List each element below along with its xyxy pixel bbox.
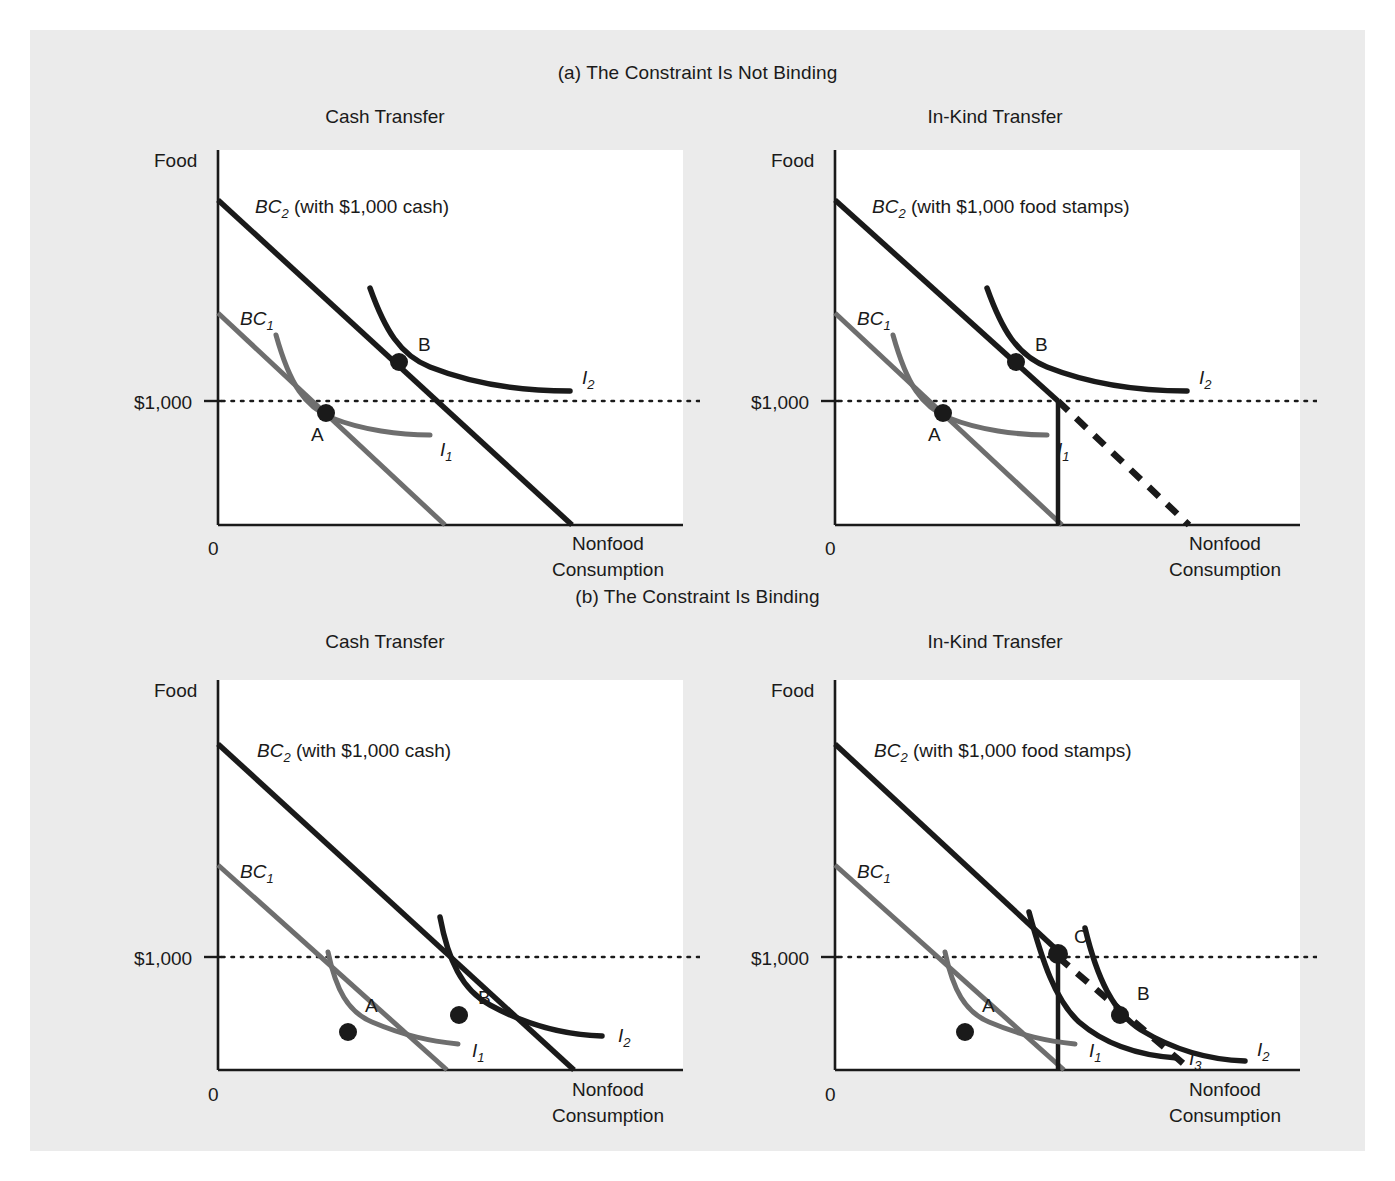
chart-a-cash: A B I1 I2 BC1 BC2 (with $1,000 cash) Foo…: [100, 135, 700, 585]
chart-b-cash: A B I1 I2 BC1 BC2 (with $1,000 cash) Foo…: [100, 660, 700, 1130]
point-a-label: A: [311, 424, 324, 445]
origin-label: 0: [825, 538, 836, 559]
point-c-marker: [1048, 944, 1068, 964]
point-a-label: A: [928, 424, 941, 445]
point-b-marker: [450, 1006, 468, 1024]
point-b-label: B: [418, 334, 431, 355]
y-tick-label-1000: $1,000: [751, 948, 809, 969]
x-axis-label-line1: Nonfood: [1189, 1079, 1261, 1100]
y-tick-label-1000: $1,000: [134, 392, 192, 413]
x-axis-label-line1: Nonfood: [572, 533, 644, 554]
origin-label: 0: [208, 1084, 219, 1105]
y-axis-label: Food: [154, 680, 197, 701]
x-axis-label-line2: Consumption: [552, 1105, 664, 1126]
point-b-marker: [1007, 353, 1025, 371]
x-axis-label-line2: Consumption: [1169, 1105, 1281, 1126]
panel-a-title: (a) The Constraint Is Not Binding: [30, 62, 1365, 84]
y-axis-label: Food: [154, 150, 197, 171]
x-axis-label-line1: Nonfood: [1189, 533, 1261, 554]
point-b-label: B: [478, 987, 491, 1008]
y-tick-label-1000: $1,000: [134, 948, 192, 969]
chart-b-cash-title: Cash Transfer: [125, 631, 645, 653]
point-b-marker: [1111, 1006, 1129, 1024]
chart-a-cash-title: Cash Transfer: [125, 106, 645, 128]
x-axis-label-line1: Nonfood: [572, 1079, 644, 1100]
point-a-marker: [956, 1023, 974, 1041]
point-b-label: B: [1035, 334, 1048, 355]
chart-b-inkind: A C B I1 I3 I2 BC1 BC2 (with $1,000 food…: [717, 660, 1317, 1130]
point-c-label: C: [1074, 926, 1088, 947]
chart-b-inkind-title: In-Kind Transfer: [735, 631, 1255, 653]
y-axis-label: Food: [771, 680, 814, 701]
x-axis-label-line2: Consumption: [552, 559, 664, 580]
point-a-marker: [934, 404, 952, 422]
point-a-marker: [339, 1023, 357, 1041]
point-a-label: A: [365, 995, 378, 1016]
point-a-marker: [317, 404, 335, 422]
panel-b-title: (b) The Constraint Is Binding: [30, 586, 1365, 608]
origin-label: 0: [825, 1084, 836, 1105]
point-b-label: B: [1137, 983, 1150, 1004]
chart-a-inkind: A B I1 I2 BC1 BC2 (with $1,000 food stam…: [717, 135, 1317, 585]
plot-area: [218, 680, 683, 1070]
origin-label: 0: [208, 538, 219, 559]
point-b-marker: [390, 353, 408, 371]
figure-container: (a) The Constraint Is Not Binding Cash T…: [30, 30, 1365, 1151]
x-axis-label-line2: Consumption: [1169, 559, 1281, 580]
y-tick-label-1000: $1,000: [751, 392, 809, 413]
point-a-label: A: [982, 995, 995, 1016]
y-axis-label: Food: [771, 150, 814, 171]
chart-a-inkind-title: In-Kind Transfer: [735, 106, 1255, 128]
